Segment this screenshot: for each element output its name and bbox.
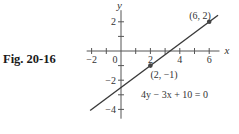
equation-label: 4y − 3x + 10 = 0 bbox=[141, 89, 208, 100]
x-axis-label: x bbox=[223, 44, 229, 56]
y-axis-label: y bbox=[116, 0, 122, 11]
y-tick-label: −4 bbox=[105, 104, 116, 115]
x-tick-label: −2 bbox=[86, 54, 97, 65]
x-tick-label: 6 bbox=[207, 54, 212, 65]
line-plot: xy−202462−2−4(6, 2)(2, −1)4y − 3x + 10 =… bbox=[0, 0, 239, 134]
x-tick-label: 0 bbox=[113, 54, 118, 65]
y-tick-label: −2 bbox=[105, 75, 116, 86]
x-tick-label: 2 bbox=[148, 54, 153, 65]
y-tick-label: 2 bbox=[111, 16, 116, 27]
point-label: (6, 2) bbox=[189, 10, 211, 22]
point-label: (2, −1) bbox=[150, 69, 177, 81]
x-tick-label: 4 bbox=[177, 54, 182, 65]
